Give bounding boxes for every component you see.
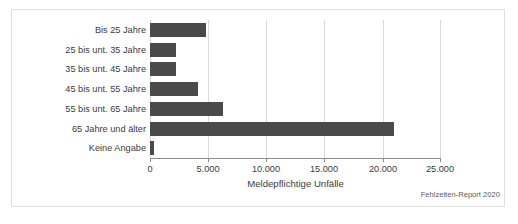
bar-row bbox=[150, 40, 441, 60]
x-tick-label: 5.000 bbox=[197, 164, 220, 174]
x-tick bbox=[208, 158, 209, 162]
x-tick-label: 0 bbox=[147, 164, 152, 174]
category-label: 35 bis unt. 45 Jahre bbox=[8, 64, 146, 74]
category-axis: Bis 25 Jahre 25 bis unt. 35 Jahre 35 bis… bbox=[4, 20, 146, 158]
x-tick bbox=[324, 158, 325, 162]
bar-55-bis-unt-65-jahre bbox=[150, 102, 223, 116]
category-label: 25 bis unt. 35 Jahre bbox=[8, 45, 146, 55]
bar-row bbox=[150, 79, 441, 99]
x-tick-label: 10.000 bbox=[252, 164, 280, 174]
bar-row bbox=[150, 20, 441, 40]
bar-row bbox=[150, 99, 441, 119]
bar-25-bis-unt-35-jahre bbox=[150, 43, 176, 57]
bar-35-bis-unt-45-jahre bbox=[150, 62, 176, 76]
category-label: Bis 25 Jahre bbox=[8, 25, 146, 35]
chart-figure: Bis 25 Jahre 25 bis unt. 35 Jahre 35 bis… bbox=[0, 0, 518, 224]
x-tick-label: 15.000 bbox=[310, 164, 338, 174]
x-axis-line bbox=[150, 158, 441, 159]
x-tick bbox=[150, 158, 151, 162]
category-label: Keine Angabe bbox=[8, 143, 146, 153]
bar-45-bis-unt-55-jahre bbox=[150, 82, 198, 96]
x-axis-title: Meldepflichtige Unfälle bbox=[150, 178, 441, 189]
bar-row bbox=[150, 138, 441, 158]
x-tick bbox=[383, 158, 384, 162]
category-label: 55 bis unt. 65 Jahre bbox=[8, 104, 146, 114]
x-tick bbox=[266, 158, 267, 162]
bar-bis-25-jahre bbox=[150, 23, 206, 37]
x-tick-label: 20.000 bbox=[369, 164, 397, 174]
x-tick bbox=[440, 158, 441, 162]
category-label: 45 bis unt. 55 Jahre bbox=[8, 84, 146, 94]
bar-65-jahre-und-aelter bbox=[150, 122, 394, 136]
category-label: 65 Jahre und älter bbox=[8, 124, 146, 134]
bar-keine-angabe bbox=[150, 141, 154, 155]
source-note: Fehlzeiten-Report 2020 bbox=[421, 190, 500, 199]
bar-row bbox=[150, 119, 441, 139]
x-tick-label: 25.000 bbox=[426, 164, 454, 174]
plot-area bbox=[150, 20, 441, 158]
bar-row bbox=[150, 59, 441, 79]
